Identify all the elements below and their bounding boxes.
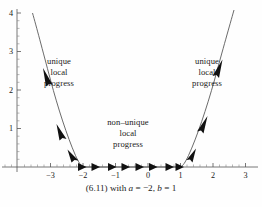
annotation-right-line1: unique bbox=[176, 56, 238, 67]
x-tick-label: −3 bbox=[46, 171, 55, 180]
x-tick-label: 0 bbox=[146, 171, 150, 180]
annotation-right: unique local progress bbox=[176, 56, 238, 90]
plot-canvas: −3 −2 −1 0 1 2 3 bbox=[0, 0, 262, 207]
y-axis-major-ticks bbox=[17, 13, 21, 129]
annotation-middle-line3: progress bbox=[93, 139, 163, 150]
figure-container: −3 −2 −1 0 1 2 3 bbox=[0, 0, 262, 207]
caption-prefix: (6.11) with bbox=[86, 183, 129, 193]
y-tick-label: 4 bbox=[9, 9, 13, 18]
annotation-middle: non–unique local progress bbox=[93, 117, 163, 151]
annotation-left-line3: progress bbox=[28, 78, 90, 89]
annotation-middle-line1: non–unique bbox=[93, 117, 163, 128]
x-tick-label: −2 bbox=[79, 171, 88, 180]
x-tick-label: −1 bbox=[111, 171, 120, 180]
x-tick-label: 3 bbox=[243, 171, 247, 180]
y-axis-tick-labels: 1 2 3 4 bbox=[9, 9, 13, 133]
y-tick-label: 3 bbox=[9, 47, 13, 56]
x-axis-tick-labels: −3 −2 −1 0 1 2 3 bbox=[46, 171, 247, 180]
figure-caption: (6.11) with a = −2, b = 1 bbox=[0, 183, 262, 193]
annotation-right-line2: local bbox=[176, 67, 238, 78]
annotation-right-line3: progress bbox=[176, 78, 238, 89]
x-tick-label: 2 bbox=[211, 171, 215, 180]
annotation-left-line2: local bbox=[28, 67, 90, 78]
caption-param-b-value: = 1 bbox=[162, 183, 176, 193]
y-tick-label: 1 bbox=[9, 124, 13, 133]
y-tick-label: 2 bbox=[9, 86, 13, 95]
caption-param-a-value: = −2, bbox=[133, 183, 157, 193]
annotation-left-line1: unique bbox=[28, 56, 90, 67]
x-tick-label: 1 bbox=[178, 171, 182, 180]
annotation-middle-line2: local bbox=[93, 128, 163, 139]
annotation-left: unique local progress bbox=[28, 56, 90, 90]
